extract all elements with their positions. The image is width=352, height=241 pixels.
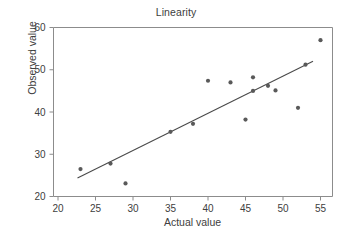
data-point (243, 118, 247, 122)
svg-text:55: 55 (315, 203, 327, 214)
regression-line (78, 61, 314, 178)
data-point (168, 130, 172, 134)
y-axis-ticks: 2030405060 (34, 22, 53, 202)
svg-text:40: 40 (34, 107, 46, 118)
plot-frame (54, 28, 333, 197)
data-point (108, 161, 112, 165)
linearity-scatter-chart: Linearity Observed value Actual value 20… (0, 0, 352, 241)
data-point (206, 79, 210, 83)
data-point (251, 89, 255, 93)
svg-text:30: 30 (127, 203, 139, 214)
data-point (303, 63, 307, 67)
data-point (318, 38, 322, 42)
svg-text:30: 30 (34, 149, 46, 160)
svg-text:35: 35 (165, 203, 177, 214)
x-axis-ticks: 2025303540455055 (52, 197, 326, 214)
svg-text:25: 25 (90, 203, 102, 214)
data-point (191, 122, 195, 126)
data-point (228, 80, 232, 84)
svg-text:50: 50 (34, 64, 46, 75)
svg-text:20: 20 (52, 203, 64, 214)
data-point (123, 181, 127, 185)
data-point (296, 106, 300, 110)
data-point (273, 88, 277, 92)
svg-text:20: 20 (34, 191, 46, 202)
svg-text:40: 40 (202, 203, 214, 214)
svg-text:60: 60 (34, 22, 46, 33)
data-point (266, 84, 270, 88)
svg-text:50: 50 (277, 203, 289, 214)
data-points (78, 38, 322, 185)
svg-text:45: 45 (240, 203, 252, 214)
data-point (78, 167, 82, 171)
data-point (251, 75, 255, 79)
plot-area: 2030405060 2025303540455055 (0, 0, 352, 241)
